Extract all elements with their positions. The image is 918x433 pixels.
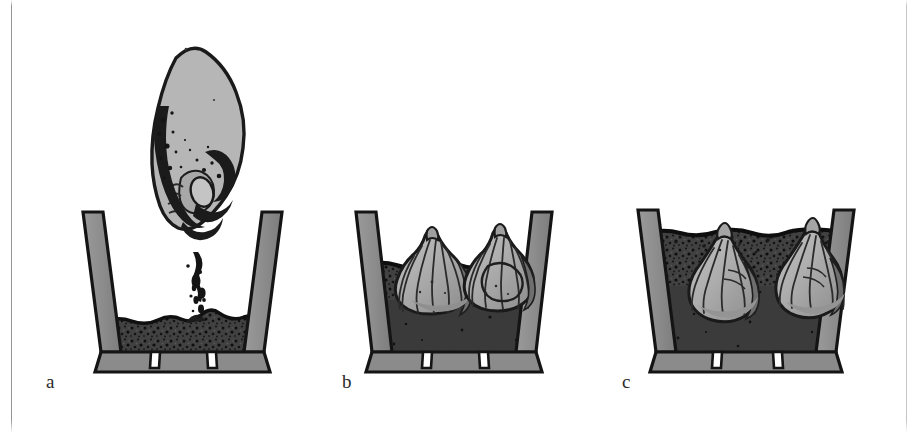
- hand-a: [152, 48, 244, 240]
- panel-c: c: [600, 0, 918, 433]
- panel-label-b: b: [342, 372, 352, 391]
- panel-a: a: [0, 0, 310, 433]
- pot-base-b: [366, 352, 542, 372]
- panel-b: b: [310, 0, 600, 433]
- pot-base-c: [650, 352, 842, 372]
- panel-label-c: c: [622, 372, 631, 391]
- pot-a: [83, 212, 282, 372]
- pot-base-a: [95, 352, 270, 372]
- panel-label-a: a: [46, 372, 55, 391]
- figure-canvas: a: [0, 0, 918, 433]
